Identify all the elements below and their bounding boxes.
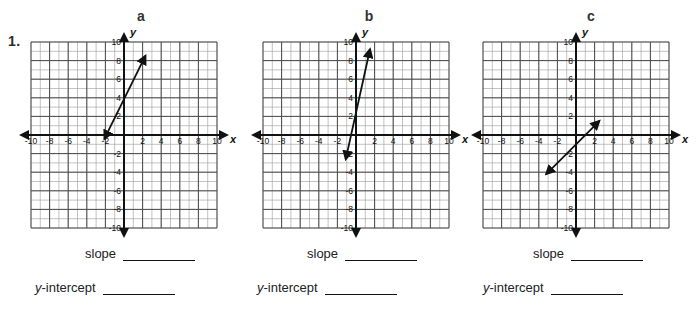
column-letter-b: b [245,8,485,24]
svg-text:4: 4 [116,93,121,103]
svg-text:-8: -8 [46,136,54,146]
svg-text:x: x [229,133,237,145]
svg-text:-10: -10 [25,136,38,146]
y-intercept-label: y-intercept [35,280,96,295]
svg-text:y: y [361,30,369,38]
svg-text:-6: -6 [64,136,72,146]
svg-text:-6: -6 [113,186,121,196]
svg-text:-8: -8 [565,204,573,214]
svg-text:10: 10 [564,37,574,47]
y-intercept-blank-c[interactable] [551,282,623,295]
svg-text:8: 8 [196,136,201,146]
svg-text:-6: -6 [565,186,573,196]
svg-text:-10: -10 [109,223,122,233]
plotted-line [546,121,599,174]
slope-label: slope [85,246,116,261]
svg-text:-6: -6 [296,136,304,146]
slope-label: slope [533,246,564,261]
slope-blank-b[interactable] [345,248,417,261]
svg-text:-2: -2 [113,149,121,159]
intercept-text: -intercept [42,280,96,295]
svg-text:4: 4 [568,93,573,103]
answers-b: slope y-intercept [245,246,477,314]
svg-text:10: 10 [444,136,454,146]
svg-text:-4: -4 [315,136,323,146]
intercept-answer-row-c: y-intercept [465,280,697,295]
svg-text:8: 8 [116,56,121,66]
svg-text:2: 2 [568,111,573,121]
svg-text:2: 2 [348,111,353,121]
svg-text:6: 6 [568,74,573,84]
svg-text:8: 8 [648,136,653,146]
coordinate-grid-a: -10-8-6-4-2246810108642-2-4-6-8-10xy [13,30,245,242]
svg-text:-4: -4 [345,167,353,177]
graph-column-c: c -10-8-6-4-2246810108642-2-4-6-8-10xy s… [465,0,697,327]
svg-text:-8: -8 [113,204,121,214]
svg-text:10: 10 [112,37,122,47]
graph-column-b: b -10-8-6-4-2246810108642-2-4-6-8-10xy s… [245,0,477,327]
intercept-answer-row-a: y-intercept [13,280,245,295]
svg-text:-10: -10 [477,136,490,146]
svg-text:-10: -10 [561,223,574,233]
svg-text:x: x [681,133,689,145]
column-letter-a: a [13,8,257,24]
svg-text:-6: -6 [345,186,353,196]
intercept-answer-row-b: y-intercept [245,280,477,295]
svg-text:8: 8 [348,56,353,66]
svg-text:6: 6 [348,74,353,84]
svg-text:4: 4 [348,93,353,103]
svg-text:6: 6 [116,74,121,84]
coordinate-grid-b: -10-8-6-4-2246810108642-2-4-6-8-10xy [245,30,477,242]
svg-text:10: 10 [344,37,354,47]
coordinate-grid-c: -10-8-6-4-2246810108642-2-4-6-8-10xy [465,30,697,242]
y-intercept-blank-a[interactable] [103,282,175,295]
slope-answer-row-a: slope [13,246,245,261]
svg-text:-4: -4 [535,136,543,146]
svg-text:-4: -4 [83,136,91,146]
intercept-text: -intercept [264,280,318,295]
slope-answer-row-b: slope [245,246,477,261]
graph-svg-a: -10-8-6-4-2246810108642-2-4-6-8-10xy [13,30,245,242]
slope-answer-row-c: slope [465,246,697,261]
svg-text:2: 2 [140,136,145,146]
svg-text:8: 8 [428,136,433,146]
svg-text:10: 10 [664,136,674,146]
svg-text:-10: -10 [257,136,270,146]
answers-c: slope y-intercept [465,246,697,314]
svg-text:4: 4 [611,136,616,146]
graph-column-a: a -10-8-6-4-2246810108642-2-4-6-8-10xy s… [13,0,245,327]
svg-text:-2: -2 [334,136,342,146]
svg-text:6: 6 [629,136,634,146]
column-letter-c: c [465,8,697,24]
svg-text:-8: -8 [498,136,506,146]
graph-svg-c: -10-8-6-4-2246810108642-2-4-6-8-10xy [465,30,697,242]
svg-text:-2: -2 [554,136,562,146]
svg-text:6: 6 [177,136,182,146]
svg-text:-6: -6 [516,136,524,146]
svg-text:4: 4 [159,136,164,146]
svg-text:-10: -10 [341,223,354,233]
svg-text:-8: -8 [278,136,286,146]
svg-text:y: y [129,30,137,38]
svg-text:2: 2 [592,136,597,146]
worksheet-page: 1. a -10-8-6-4-2246810108642-2-4-6-8-10x… [0,0,697,327]
y-intercept-label: y-intercept [483,280,544,295]
y-intercept-label: y-intercept [257,280,318,295]
svg-text:-8: -8 [345,204,353,214]
svg-text:10: 10 [212,136,222,146]
svg-text:-4: -4 [113,167,121,177]
svg-text:4: 4 [391,136,396,146]
intercept-text: -intercept [490,280,544,295]
svg-text:2: 2 [372,136,377,146]
y-intercept-blank-b[interactable] [325,282,397,295]
svg-text:y: y [581,30,589,38]
slope-blank-a[interactable] [123,248,195,261]
svg-text:8: 8 [568,56,573,66]
svg-text:6: 6 [409,136,414,146]
graph-svg-b: -10-8-6-4-2246810108642-2-4-6-8-10xy [245,30,477,242]
slope-blank-c[interactable] [571,248,643,261]
svg-text:-4: -4 [565,167,573,177]
plotted-line [346,49,370,159]
slope-label: slope [307,246,338,261]
answers-a: slope y-intercept [13,246,245,314]
